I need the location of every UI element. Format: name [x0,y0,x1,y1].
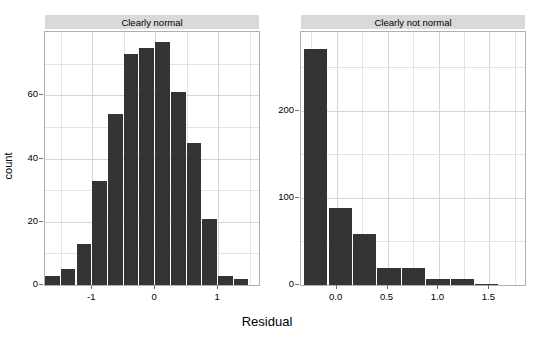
histogram-bar [124,54,139,285]
x-axis-tick-label: 0.0 [316,291,356,302]
gridline-vertical-major [489,32,490,285]
histogram-bar [155,42,170,286]
x-axis-title: Residual [0,314,534,329]
gridline-horizontal-minor [301,67,525,68]
histogram-bar [77,244,92,285]
histogram-bar [475,284,498,285]
x-axis-tick-label: 1.5 [468,291,508,302]
x-axis-tick-mark [91,285,92,289]
x-axis-tick-mark [488,285,489,289]
plot-area-left [44,31,260,286]
y-axis-tick-mark [39,284,43,285]
histogram-bar [304,49,327,285]
plot-area-right [300,31,526,286]
gridline-vertical-minor [464,32,465,285]
facet-strip-label-left: Clearly normal [44,14,260,30]
histogram-bar [171,92,186,285]
x-axis-tick-mark [217,285,218,289]
y-axis-tick-mark [39,221,43,222]
facet-panel-clearly-normal: Clearly normal [44,14,260,286]
facet-strip-label-right: Clearly not normal [300,14,526,30]
histogram-bar [187,143,202,285]
y-axis-tick-mark [39,158,43,159]
x-axis-tick-mark [336,285,337,289]
gridline-vertical-minor [413,32,414,285]
y-axis-tick-mark [295,110,299,111]
x-axis-tick-label: 0 [134,291,174,302]
histogram-bar [218,276,233,286]
facet-panel-clearly-not-normal: Clearly not normal [300,14,526,286]
histogram-bar [353,234,376,285]
histogram-bar [92,181,107,285]
histogram-bar [61,269,76,285]
histogram-bar [139,48,154,285]
gridline-vertical-major [439,32,440,285]
y-axis-tick-mark [295,284,299,285]
gridline-horizontal-minor [301,154,525,155]
y-axis-tick-label: 100 [258,191,294,202]
histogram-bar [108,114,123,285]
x-axis-tick-label: -1 [71,291,111,302]
histogram-bar [402,268,425,285]
histogram-figure: count Residual Clearly normal 0204060 -1… [0,0,534,343]
x-axis-tick-mark [387,285,388,289]
x-axis-tick-mark [437,285,438,289]
y-axis-tick-label: 60 [2,88,38,99]
x-axis-tick-label: 1 [197,291,237,302]
histogram-bar [451,279,474,285]
gridline-vertical-minor [515,32,516,285]
histogram-bar [45,276,60,286]
y-axis-tick-mark [295,197,299,198]
histogram-bar [234,279,249,285]
gridline-vertical-major [388,32,389,285]
y-axis-tick-label: 40 [2,152,38,163]
x-axis-tick-label: 1.0 [417,291,457,302]
histogram-bar [377,268,400,285]
y-axis-tick-mark [39,94,43,95]
x-axis-tick-label: 0.5 [367,291,407,302]
y-axis-tick-label: 20 [2,215,38,226]
y-axis-tick-label: 200 [258,104,294,115]
gridline-horizontal-major [301,198,525,199]
gridline-horizontal-major [301,111,525,112]
y-axis-tick-label: 0 [2,278,38,289]
histogram-bar [329,208,352,285]
x-axis-tick-mark [154,285,155,289]
y-axis-tick-label: 0 [258,278,294,289]
histogram-bar [202,219,217,285]
